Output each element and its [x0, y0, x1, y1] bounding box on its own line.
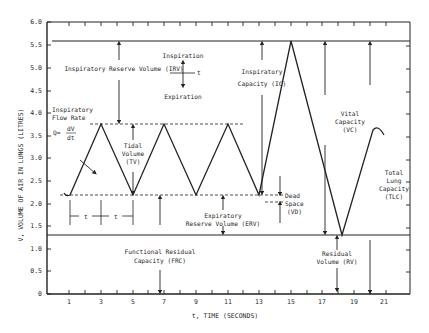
svg-text:Inspiration: Inspiration — [163, 52, 204, 60]
svg-text:1.0: 1.0 — [30, 245, 42, 253]
svg-text:0.5: 0.5 — [30, 267, 42, 275]
svg-text:1.5: 1.5 — [30, 222, 42, 230]
svg-text:Capacity (FRC): Capacity (FRC) — [134, 257, 186, 265]
svg-text:(TLC): (TLC) — [385, 193, 404, 200]
svg-text:3: 3 — [99, 298, 103, 306]
period-label: t — [114, 213, 118, 220]
svg-text:Total: Total — [385, 169, 404, 176]
svg-text:(VD): (VD) — [287, 208, 302, 215]
svg-text:dt: dt — [67, 134, 75, 141]
svg-text:3.0: 3.0 — [30, 154, 42, 162]
spirometry-chart: 0 0.5 1.0 1.5 2.0 2.5 3.0 3.5 4.0 4.5 5.… — [0, 0, 429, 333]
svg-text:4.0: 4.0 — [30, 109, 42, 117]
y-axis-title: V, VOLUME OF AIR IN LUNGS (LITRES) — [17, 108, 25, 241]
annotations: Inspiratory Reserve Volume (IRV) Inspira… — [52, 52, 409, 265]
svg-text:Functional Residual: Functional Residual — [125, 248, 196, 255]
flow-t-label: t — [197, 69, 201, 76]
svg-text:(VC): (VC) — [343, 126, 358, 133]
svg-text:7: 7 — [162, 298, 166, 306]
y-axis-ticks — [47, 22, 410, 294]
svg-text:19: 19 — [350, 298, 358, 306]
svg-text:Residual: Residual — [322, 250, 352, 257]
svg-text:Capacity (IC): Capacity (IC) — [238, 80, 286, 88]
svg-text:21: 21 — [380, 298, 388, 306]
svg-text:(TV): (TV) — [126, 158, 141, 165]
svg-text:Q=: Q= — [53, 129, 61, 136]
svg-text:6.0: 6.0 — [30, 18, 42, 26]
svg-text:0: 0 — [38, 290, 42, 298]
svg-text:17: 17 — [318, 298, 326, 306]
svg-text:3.5: 3.5 — [30, 132, 42, 140]
svg-text:5: 5 — [131, 298, 135, 306]
svg-text:Tidal: Tidal — [124, 142, 143, 149]
svg-text:2.5: 2.5 — [30, 177, 42, 185]
x-axis-title: t, TIME (SECONDS) — [192, 312, 259, 320]
svg-text:9: 9 — [194, 298, 198, 306]
svg-text:Inspiratory Reserve Volume (IR: Inspiratory Reserve Volume (IRV) — [64, 65, 183, 73]
svg-text:Volume: Volume — [122, 150, 145, 157]
svg-text:Dead: Dead — [285, 192, 300, 199]
svg-text:11: 11 — [224, 298, 232, 306]
svg-text:Capacity: Capacity — [335, 118, 365, 126]
svg-text:Volume (RV): Volume (RV) — [317, 258, 358, 265]
svg-text:1: 1 — [67, 298, 71, 306]
plot-frame — [47, 22, 410, 294]
svg-text:Inspiratory: Inspiratory — [52, 106, 93, 114]
svg-text:2.0: 2.0 — [30, 200, 42, 208]
svg-text:Inspiratory: Inspiratory — [242, 68, 283, 76]
svg-text:Space: Space — [285, 200, 304, 208]
svg-text:Expiratory: Expiratory — [204, 212, 242, 220]
svg-text:5.0: 5.0 — [30, 64, 42, 72]
svg-text:15: 15 — [287, 298, 295, 306]
svg-text:13: 13 — [255, 298, 263, 306]
period-markers — [70, 200, 133, 225]
svg-text:Expiration: Expiration — [164, 93, 202, 101]
y-axis-labels: 0 0.5 1.0 1.5 2.0 2.5 3.0 3.5 4.0 4.5 5.… — [30, 18, 42, 298]
period-label: t — [84, 213, 88, 220]
svg-text:Lung: Lung — [387, 177, 402, 185]
svg-text:Reserve Volume (ERV): Reserve Volume (ERV) — [186, 220, 261, 227]
svg-text:Capacity: Capacity — [379, 185, 409, 193]
svg-text:4.5: 4.5 — [30, 87, 42, 95]
svg-text:Vital: Vital — [341, 110, 360, 117]
x-axis-labels: 1 3 5 7 9 11 13 15 17 19 21 — [67, 298, 388, 306]
svg-text:Flow Rate: Flow Rate — [52, 114, 86, 121]
svg-text:dV: dV — [67, 125, 75, 132]
svg-text:5.5: 5.5 — [30, 41, 42, 49]
